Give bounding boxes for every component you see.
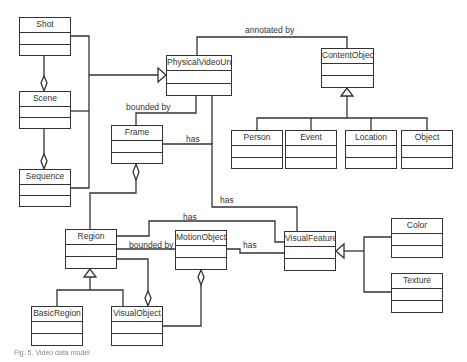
class-attributes [112, 141, 162, 153]
class-operations [286, 158, 336, 169]
class-name: Object [402, 131, 452, 146]
class-attributes [392, 234, 442, 246]
class-attributes [167, 71, 231, 84]
class-operations [112, 153, 162, 164]
class-name: Event [286, 131, 336, 146]
class-attributes [286, 146, 336, 158]
class-attributes [232, 146, 282, 158]
class-attributes [176, 246, 226, 258]
class-name: VisualObject [112, 307, 162, 322]
class-name: Location [346, 131, 396, 146]
label-bounded-by-motion: bounded by [129, 240, 173, 250]
class-operations [20, 118, 70, 128]
class-operations [167, 84, 231, 96]
class-name: Color [392, 219, 442, 234]
class-name: PhysicalVideoUnit [167, 56, 231, 71]
class-name: Region [66, 230, 116, 245]
class-operations [285, 259, 335, 270]
label-has-region-visualfeature: has [183, 212, 197, 222]
class-operations [392, 246, 442, 257]
class-attributes [20, 107, 70, 118]
class-operations [402, 158, 452, 169]
class-operations [20, 196, 70, 206]
label-annotated-by: annotated by [245, 25, 294, 35]
class-event[interactable]: Event [285, 130, 337, 169]
class-person[interactable]: Person [231, 130, 283, 169]
class-visualfeature[interactable]: VisualFeature [284, 231, 336, 271]
class-name: Scene [20, 92, 70, 107]
class-name: BasicRegion [32, 307, 82, 322]
class-operations [20, 45, 70, 56]
class-color[interactable]: Color [391, 218, 443, 258]
class-operations [392, 301, 442, 312]
label-has-motion-visualfeature: has [243, 240, 257, 250]
class-attributes [112, 322, 162, 334]
class-operations [232, 158, 282, 169]
class-physicalvideounit[interactable]: PhysicalVideoUnit [166, 55, 232, 96]
class-name: Frame [112, 126, 162, 141]
class-basicregion[interactable]: BasicRegion [31, 306, 83, 346]
class-scene[interactable]: Scene [19, 91, 71, 129]
class-texture[interactable]: Texture [391, 273, 443, 313]
class-operations [176, 258, 226, 269]
label-has-pvu-visualfeature: has [220, 195, 234, 205]
class-attributes [20, 33, 70, 45]
class-attributes [322, 64, 373, 76]
label-has-frame-visualfeature: has [186, 134, 200, 144]
class-operations [322, 76, 373, 87]
class-contentobject[interactable]: ContentObject [321, 48, 374, 88]
class-location[interactable]: Location [345, 130, 397, 169]
class-operations [112, 334, 162, 345]
class-operations [32, 334, 82, 345]
class-visualobject[interactable]: VisualObject [111, 306, 163, 346]
class-name: Sequence [20, 170, 70, 185]
class-attributes [392, 289, 442, 301]
class-frame[interactable]: Frame [111, 125, 163, 164]
class-name: ContentObject [322, 49, 373, 64]
class-attributes [66, 245, 116, 257]
label-bounded-by-frame: bounded by [126, 102, 170, 112]
class-object[interactable]: Object [401, 130, 453, 169]
class-attributes [32, 322, 82, 334]
class-motionobject[interactable]: MotionObject [175, 230, 227, 270]
class-name: Person [232, 131, 282, 146]
class-name: VisualFeature [285, 232, 335, 247]
figure-caption: Fig. 5. Video data model [14, 349, 90, 356]
class-sequence[interactable]: Sequence [19, 169, 71, 207]
class-attributes [20, 185, 70, 196]
class-attributes [402, 146, 452, 158]
class-operations [346, 158, 396, 169]
class-shot[interactable]: Shot [19, 17, 71, 56]
class-attributes [346, 146, 396, 158]
class-name: MotionObject [176, 231, 226, 246]
class-name: Texture [392, 274, 442, 289]
class-operations [66, 257, 116, 268]
class-attributes [285, 247, 335, 259]
class-region[interactable]: Region [65, 229, 117, 269]
class-name: Shot [20, 18, 70, 33]
